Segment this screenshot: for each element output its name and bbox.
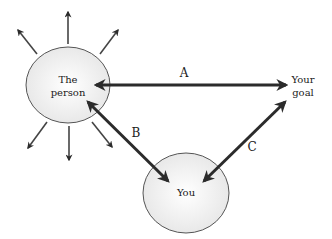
edge-a: A <box>96 66 286 85</box>
goal-label-line2: goal <box>292 87 314 98</box>
edge-c: C <box>204 102 285 181</box>
you-label: You <box>176 187 196 198</box>
goal-label-line1: Your <box>291 74 315 85</box>
ray-arrow-up-left <box>18 30 37 54</box>
edge-b-label: B <box>132 126 141 140</box>
ray-arrow-up-right <box>100 30 118 54</box>
ray-arrow-down-left <box>28 122 47 148</box>
person-label-line1: The <box>58 74 77 85</box>
edge-b: B <box>88 102 168 181</box>
edge-a-label: A <box>179 66 189 80</box>
node-you: You <box>143 153 229 233</box>
ray-arrow-down-right <box>92 122 112 147</box>
edge-c-label: C <box>247 140 256 154</box>
person-label-line2: person <box>51 87 86 98</box>
node-your-goal: Your goal <box>291 74 315 98</box>
relationship-diagram: The person You Your goal A B C <box>0 0 332 239</box>
